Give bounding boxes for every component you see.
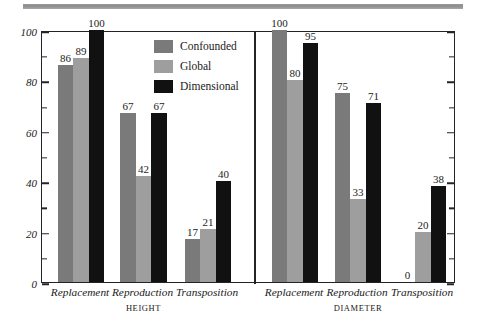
y-tick-minor-right-10 bbox=[449, 258, 454, 259]
y-tick-minor-90 bbox=[42, 57, 47, 58]
bar-height-reproduction-confounded bbox=[120, 113, 136, 282]
y-tick-major-right-80 bbox=[447, 82, 454, 84]
y-tick-label-80: 80 bbox=[26, 76, 42, 88]
bar-height-reproduction-dimensional bbox=[151, 113, 167, 282]
bar-diameter-replacement-global bbox=[287, 80, 303, 282]
legend-swatch-global bbox=[154, 60, 173, 73]
bar-diameter-replacement-dimensional bbox=[303, 43, 319, 282]
x-tick-label-diameter-transposition: Transposition bbox=[391, 286, 453, 298]
bar-height-replacement-confounded bbox=[58, 65, 74, 282]
y-tick-major-20 bbox=[42, 233, 49, 235]
bar-value-height-reproduction-confounded: 67 bbox=[114, 100, 142, 112]
y-tick-minor-right-30 bbox=[449, 208, 454, 209]
bar-height-replacement-dimensional bbox=[89, 30, 105, 282]
bar-diameter-transposition-dimensional bbox=[431, 186, 447, 282]
bar-value-diameter-reproduction-dimensional: 71 bbox=[360, 90, 388, 102]
y-tick-major-right-20 bbox=[447, 233, 454, 235]
bar-diameter-reproduction-global bbox=[350, 199, 366, 282]
bar-height-transposition-confounded bbox=[185, 239, 201, 282]
y-tick-major-right-0 bbox=[447, 283, 454, 285]
bar-height-transposition-dimensional bbox=[216, 181, 232, 282]
x-tick-label-diameter-replacement: Replacement bbox=[265, 286, 323, 298]
bar-value-diameter-replacement-dimensional: 95 bbox=[297, 30, 325, 42]
y-tick-major-0 bbox=[42, 283, 49, 285]
y-tick-label-20: 20 bbox=[26, 228, 42, 240]
chart-legend: Confounded Global Dimensional bbox=[154, 36, 250, 96]
y-tick-minor-30 bbox=[42, 208, 47, 209]
y-tick-major-100 bbox=[42, 31, 49, 33]
y-tick-label-0: 0 bbox=[32, 278, 43, 290]
bar-chart-figure: PERCENT OF CHILDREN WHO SUCCEED 10080604… bbox=[0, 0, 481, 325]
x-tick-label-height-replacement: Replacement bbox=[51, 286, 109, 298]
legend-swatch-confounded bbox=[154, 40, 173, 53]
y-tick-minor-10 bbox=[42, 258, 47, 259]
bar-value-diameter-reproduction-confounded: 75 bbox=[329, 80, 357, 92]
bar-value-diameter-replacement-confounded: 100 bbox=[266, 17, 294, 29]
y-tick-minor-right-50 bbox=[449, 157, 454, 158]
x-tick-label-height-reproduction: Reproduction bbox=[112, 286, 173, 298]
panel-caption-height: HEIGHT bbox=[126, 303, 161, 313]
bar-value-height-reproduction-dimensional: 67 bbox=[145, 100, 173, 112]
legend-label-confounded: Confounded bbox=[180, 40, 237, 52]
bar-value-height-replacement-dimensional: 100 bbox=[83, 17, 111, 29]
bar-height-reproduction-global bbox=[136, 176, 152, 282]
y-tick-minor-50 bbox=[42, 157, 47, 158]
bar-value-diameter-transposition-dimensional: 38 bbox=[425, 173, 453, 185]
y-tick-label-60: 60 bbox=[26, 127, 42, 139]
y-tick-major-right-60 bbox=[447, 132, 454, 134]
panel-divider bbox=[254, 32, 256, 284]
y-tick-major-right-100 bbox=[447, 31, 454, 33]
legend-label-global: Global bbox=[180, 60, 211, 72]
x-tick-label-diameter-reproduction: Reproduction bbox=[326, 286, 387, 298]
bar-height-replacement-global bbox=[73, 58, 89, 282]
legend-label-dimensional: Dimensional bbox=[180, 80, 239, 92]
legend-swatch-dimensional bbox=[154, 80, 173, 93]
legend-item-global: Global bbox=[154, 56, 250, 76]
y-tick-minor-right-90 bbox=[449, 57, 454, 58]
y-tick-minor-70 bbox=[42, 107, 47, 108]
bar-height-transposition-global bbox=[200, 229, 216, 282]
y-tick-label-40: 40 bbox=[26, 177, 42, 189]
bar-value-height-transposition-dimensional: 40 bbox=[210, 168, 238, 180]
y-tick-major-60 bbox=[42, 132, 49, 134]
plot-frame: 100806040200 868910067426717214010080957… bbox=[41, 31, 455, 283]
legend-item-confounded: Confounded bbox=[154, 36, 250, 56]
bar-diameter-transposition-global bbox=[415, 232, 431, 282]
legend-item-dimensional: Dimensional bbox=[154, 76, 250, 96]
y-tick-label-100: 100 bbox=[21, 26, 43, 38]
y-tick-major-40 bbox=[42, 182, 49, 184]
y-tick-major-80 bbox=[42, 82, 49, 84]
bar-diameter-reproduction-dimensional bbox=[366, 103, 382, 282]
x-tick-label-height-transposition: Transposition bbox=[176, 286, 238, 298]
y-tick-minor-right-70 bbox=[449, 107, 454, 108]
panel-caption-diameter: DIAMETER bbox=[334, 303, 383, 313]
